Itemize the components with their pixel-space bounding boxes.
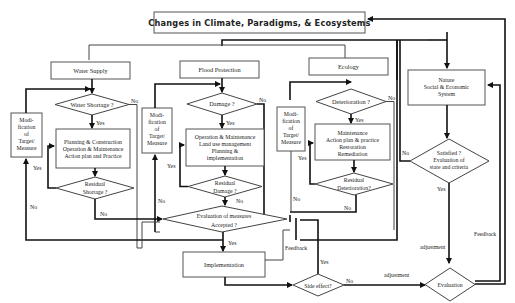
water-supply-header: Water Supply [51, 62, 130, 79]
system-line: Social & Economic [424, 84, 470, 90]
no-label: No [388, 95, 395, 101]
flood-action-box: Operation & Maintenance Land use managem… [186, 129, 264, 166]
yes-label: Yes [298, 155, 307, 161]
yes-label: Yes [33, 165, 42, 171]
ecology-header: Ecology [309, 58, 388, 75]
yes-label: Yes [355, 117, 364, 123]
yes-label: Yes [228, 240, 237, 246]
no-label: No [236, 198, 243, 204]
action-line: Operation & Maintenance [63, 146, 124, 152]
yes-label: Yes [226, 120, 235, 126]
no-label: No [131, 98, 138, 104]
no-label: No [346, 278, 353, 284]
connector [225, 277, 292, 285]
water-action-box: Planning & Construction Operation & Main… [56, 129, 130, 168]
water-modification-box: Modi- fication of Target/ Measure [11, 113, 42, 157]
implementation-label: Implementation [204, 261, 245, 268]
decision-label: Accepted ? [211, 222, 237, 228]
action-line: Restoration [339, 144, 366, 150]
flood-protection-label: Flood Protection [198, 66, 241, 73]
modification-line: Modi- [150, 112, 165, 118]
connector [48, 146, 56, 188]
implementation-box: Implementation [183, 252, 265, 277]
action-line: implementation [207, 155, 243, 161]
modification-line: fication [282, 118, 300, 124]
modification-line: fication [18, 124, 36, 130]
modification-line: Modi- [19, 117, 34, 123]
system-box: Nature Social & Economic System [408, 70, 485, 105]
modification-line: Modi- [284, 111, 299, 117]
title-text: Changes in Climate, Paradigms, & Ecosyst… [148, 18, 370, 28]
action-line: Action plan and Practice [64, 153, 122, 159]
decision-label: Residual [85, 181, 106, 187]
ecology-modification-box: Modi- fication of Target/ Measure [277, 107, 305, 151]
connector [475, 85, 500, 281]
decision-label: Residual [344, 177, 365, 183]
residual-deterioration-decision: Residual Deterioration? [315, 173, 393, 195]
modification-line: of [289, 125, 294, 131]
action-line: Maintenance [338, 130, 368, 136]
water-shortage-decision: Water Shortage ? [55, 94, 129, 115]
flowchart-diagram: Changes in Climate, Paradigms, & Ecosyst… [0, 0, 515, 303]
connector [386, 102, 394, 231]
no-label: No [30, 204, 37, 210]
system-line: Nature [439, 77, 455, 83]
modification-line: Measure [281, 139, 301, 145]
ecology-action-box: Maintenance Action plan & practice Resto… [315, 124, 390, 160]
action-line: Operation & Maintenance [195, 134, 256, 140]
decision-label: Damage ? [209, 100, 235, 107]
deterioration-decision: Deterioration ? [316, 89, 386, 114]
action-line: Planning & Construction [64, 139, 122, 145]
damage-decision: Damage ? [187, 93, 257, 115]
no-label: No [259, 97, 266, 103]
adjustment-label: adjustment [420, 244, 446, 250]
yes-label: Yes [167, 163, 176, 169]
decision-label: Damage ? [213, 188, 237, 194]
connector [26, 159, 223, 240]
system-line: System [438, 91, 456, 97]
ecology-label: Ecology [338, 63, 360, 70]
decision-label: Satisfied ? [437, 150, 462, 156]
modification-line: Target/ [283, 132, 300, 138]
yes-label: Yes [320, 259, 329, 265]
yes-label: Yes [96, 120, 105, 126]
connector [89, 45, 222, 60]
modification-line: Target/ [149, 133, 166, 139]
decision-label: Side effect? [304, 283, 332, 289]
action-line: Remediation [338, 151, 368, 157]
decision-label: Deterioration ? [332, 98, 370, 105]
yes-label: Yes [437, 186, 446, 192]
action-line: Planning & [212, 148, 239, 154]
action-line: Land use management [199, 141, 252, 147]
decision-label: Deterioration? [337, 185, 371, 191]
decision-label: Evaluation of [433, 157, 464, 163]
decision-label: state and criteria [430, 164, 469, 170]
residual-damage-decision: Residual Damage ? [188, 176, 262, 197]
connector [222, 45, 345, 58]
modification-line: Measure [147, 140, 167, 146]
flood-modification-box: Modi- fication of Target/ Measure [142, 108, 172, 153]
evaluation-measures-decision: Evaluation of measures Accepted ? [163, 206, 287, 232]
action-line: Action plan & practice [326, 137, 379, 143]
adjustment-label: adjustment [384, 272, 410, 278]
decision-label: Evaluation of measures [197, 213, 252, 219]
modification-line: of [155, 126, 160, 132]
connector [310, 143, 315, 184]
no-label: No [293, 196, 300, 202]
modification-line: Target/ [18, 138, 35, 144]
residual-shortage-decision: Residual Shortage ? [56, 177, 134, 199]
connector [142, 222, 160, 248]
modification-line: Measure [17, 145, 37, 151]
modification-line: fication [148, 119, 166, 125]
no-label: No [100, 211, 107, 217]
title-box: Changes in Climate, Paradigms, & Ecosyst… [148, 12, 370, 33]
evaluation-decision: Evaluation [425, 268, 475, 301]
decision-label: Residual [215, 180, 236, 186]
decision-label: Evaluation [437, 282, 462, 288]
feedback-label: Feedback [285, 245, 307, 251]
feedback-label: Feedback [474, 231, 496, 237]
decision-label: Water Shortage ? [70, 101, 113, 108]
decision-label: Shortage ? [83, 189, 108, 195]
satisfied-decision: Satisfied ? Evaluation of state and crit… [410, 139, 489, 183]
flood-protection-header: Flood Protection [180, 61, 259, 78]
